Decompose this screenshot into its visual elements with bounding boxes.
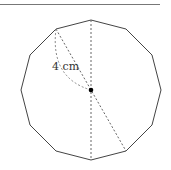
dodecagon-diagram: 4 cm	[0, 0, 171, 170]
center-dot	[89, 88, 94, 93]
radius-label: 4 cm	[52, 60, 80, 73]
